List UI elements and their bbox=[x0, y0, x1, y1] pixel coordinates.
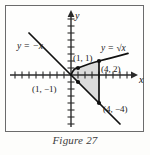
point-1-neg1 bbox=[76, 80, 80, 84]
label-point-4-2: (4, 2) bbox=[101, 64, 121, 74]
label-point-1-neg1: (1, −1) bbox=[32, 84, 57, 94]
point-4-2 bbox=[97, 59, 101, 63]
line-equation-label: y = −x bbox=[16, 41, 44, 51]
shaded-region bbox=[71, 61, 99, 103]
label-point-1-1: (1, 1) bbox=[73, 53, 93, 63]
x-axis-label: x bbox=[138, 74, 144, 85]
sqrt-equation-label: y = √x bbox=[100, 43, 127, 53]
figure-caption: Figure 27 bbox=[0, 134, 150, 146]
y-axis-label: y bbox=[74, 10, 80, 21]
point-1-1 bbox=[76, 66, 80, 70]
coordinate-plot: y x y = −x y = √x (1, 1) (1, −1) (4, 2) … bbox=[0, 0, 150, 134]
y-axis-arrow bbox=[68, 10, 75, 17]
figure-page: y x y = −x y = √x (1, 1) (1, −1) (4, 2) … bbox=[0, 0, 150, 155]
point-4-neg4 bbox=[97, 101, 101, 105]
label-point-4-neg4: (4, −4) bbox=[103, 104, 128, 114]
x-axis-arrow bbox=[131, 72, 138, 79]
